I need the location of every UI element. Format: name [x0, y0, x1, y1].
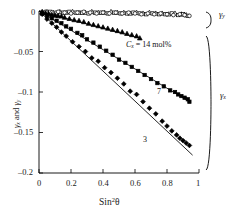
xtick-label: 0.2 [66, 179, 77, 188]
xtick-label: 0.8 [162, 179, 173, 188]
x-axis-title: Sin2θ [99, 196, 119, 207]
plot-series-group [39, 9, 193, 155]
xtick-label: 0.4 [98, 179, 109, 188]
ytick-label: –0.2 [18, 168, 33, 177]
bracket-gamma-x [206, 36, 211, 170]
ytick-label: –0.1 [18, 88, 33, 97]
ytick-label: –0.15 [14, 128, 33, 137]
bracket-label-gamma-x: γx [220, 90, 226, 100]
ytick-label: –0.05 [14, 48, 33, 57]
xtick-label: 0 [37, 179, 41, 188]
annotation-series-3: 3 [143, 135, 147, 144]
xtick-label: 1 [196, 179, 200, 188]
xtick-label: 0.6 [130, 179, 141, 188]
bracket-group [206, 12, 211, 170]
bracket-label-gamma-y: γy [219, 9, 225, 19]
y-axis-title: γx and γy [11, 100, 21, 128]
annotation-cx-14-molpercent: Cx = 14 mol% [126, 40, 171, 49]
bracket-gamma-y [206, 12, 211, 28]
annotation-series-7: 7 [157, 87, 161, 96]
figure-chart: 0 –0.05 –0.1 –0.15 –0.2 0 0.2 0.4 0.6 0.… [0, 0, 233, 220]
